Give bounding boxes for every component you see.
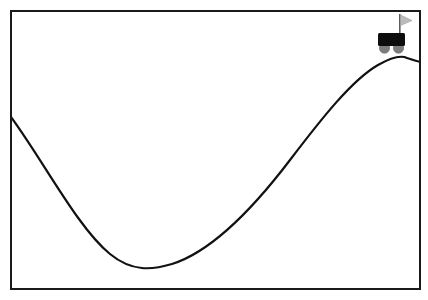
env-viewport xyxy=(0,0,428,300)
car-body-icon xyxy=(378,33,405,46)
mountain-car-environment: MountainCar-v0 rgb_array MountainCar-v0 … xyxy=(0,0,428,300)
viewport-border xyxy=(11,11,420,289)
env-render-surface xyxy=(0,0,428,300)
